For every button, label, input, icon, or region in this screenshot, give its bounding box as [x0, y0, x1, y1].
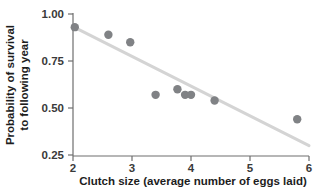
- y-axis-title-line2: to following year: [18, 39, 30, 131]
- y-tick-label-0.50: 0.50: [42, 102, 64, 114]
- y-tick-label-1.00: 1.00: [42, 8, 64, 20]
- data-point: [126, 38, 134, 46]
- data-point: [293, 115, 301, 123]
- y-tick-label-0.25: 0.25: [42, 149, 65, 161]
- y-axis-title-line1: Probability of survival: [4, 25, 16, 145]
- y-tick-label-0.75: 0.75: [42, 55, 65, 67]
- chart-canvas: 1.00 0.75 0.50 0.25 2 3 4 5 6 Clutch siz…: [0, 0, 321, 187]
- x-tick-label-6: 6: [306, 162, 312, 174]
- scatter-chart-figure: 1.00 0.75 0.50 0.25 2 3 4 5 6 Clutch siz…: [0, 0, 321, 187]
- x-tick-label-2: 2: [70, 162, 76, 174]
- data-point: [104, 30, 112, 38]
- x-tick-label-5: 5: [247, 162, 254, 174]
- data-point: [173, 85, 181, 93]
- x-tick-label-3: 3: [129, 162, 135, 174]
- x-tick-label-4: 4: [188, 162, 195, 174]
- data-point: [151, 91, 159, 99]
- data-point: [210, 96, 218, 104]
- data-point: [187, 91, 195, 99]
- x-axis-title: Clutch size (average number of eggs laid…: [79, 175, 307, 187]
- data-point: [71, 23, 79, 31]
